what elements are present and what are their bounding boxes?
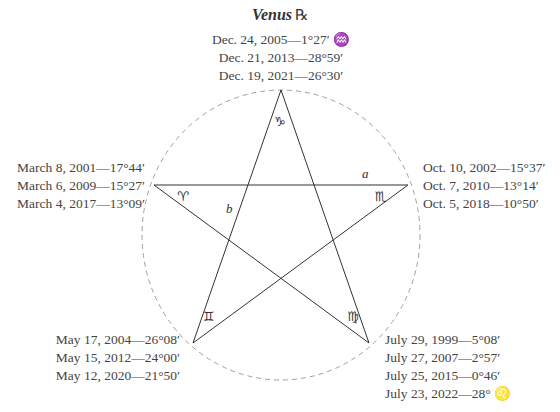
date-entry: July 29, 1999—5°08′ xyxy=(385,331,511,349)
pentagram-line-top-to-bottom-left xyxy=(193,90,281,343)
dates-bottom-left: May 17, 2004—26°08′ May 15, 2012—24°00′ … xyxy=(0,331,180,385)
date-entry: March 8, 2001—17°44′ xyxy=(0,159,145,177)
virgo-icon: ♍ xyxy=(347,309,359,324)
label-a: a xyxy=(362,166,369,181)
date-entry: May 12, 2020—21°50′ xyxy=(0,367,180,385)
dates-top: Dec. 24, 2005—1°27′ ♒ Dec. 21, 2013—28°5… xyxy=(181,31,381,85)
pentagram-line-left-to-bottom-right xyxy=(154,185,369,343)
date-entry: Oct. 10, 2002—15°37′ xyxy=(423,159,545,177)
date-entry: May 15, 2012—24°00′ xyxy=(0,349,180,367)
orbit-circle xyxy=(142,90,420,380)
pentagram-line-top-to-bottom-right xyxy=(281,90,369,343)
date-entry: March 4, 2017—13°09′ xyxy=(0,195,145,213)
dates-left: March 8, 2001—17°44′ March 6, 2009—15°27… xyxy=(0,159,145,213)
date-entry: July 23, 2022—28° ♌ xyxy=(385,385,511,403)
aries-icon: ♈ xyxy=(177,189,189,204)
date-entry: July 25, 2015—0°46′ xyxy=(385,367,511,385)
capricorn-icon: ♑ xyxy=(274,114,286,129)
date-entry: Dec. 21, 2013—28°59′ xyxy=(181,49,381,67)
date-entry: May 17, 2004—26°08′ xyxy=(0,331,180,349)
date-entry: Oct. 7, 2010—13°14′ xyxy=(423,177,545,195)
date-entry: March 6, 2009—15°27′ xyxy=(0,177,145,195)
dates-bottom-right: July 29, 1999—5°08′ July 27, 2007—2°57′ … xyxy=(385,331,511,403)
gemini-icon: ♊ xyxy=(203,309,215,324)
date-entry: July 27, 2007—2°57′ xyxy=(385,349,511,367)
date-entry: Oct. 5, 2018—10°50′ xyxy=(423,195,545,213)
scorpio-icon: ♏ xyxy=(375,189,387,204)
label-b: b xyxy=(226,201,233,216)
date-entry: Dec. 19, 2021—26°30′ xyxy=(181,67,381,85)
dates-right: Oct. 10, 2002—15°37′ Oct. 7, 2010—13°14′… xyxy=(423,159,545,213)
date-entry: Dec. 24, 2005—1°27′ ♒ xyxy=(181,31,381,49)
